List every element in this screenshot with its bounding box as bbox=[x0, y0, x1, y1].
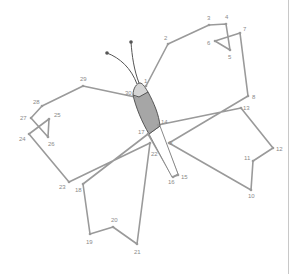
dot-label-4: 4 bbox=[225, 14, 229, 20]
dot-label-7: 7 bbox=[243, 26, 247, 32]
dot-label-17: 17 bbox=[138, 129, 145, 135]
dot-label-12: 12 bbox=[276, 146, 283, 152]
dot-label-19: 19 bbox=[86, 239, 93, 245]
dot-18 bbox=[82, 183, 85, 186]
dot-23 bbox=[68, 181, 71, 184]
dot-17 bbox=[147, 133, 150, 136]
dot-16 bbox=[172, 176, 175, 179]
dot-label-27: 27 bbox=[20, 115, 27, 121]
dot-13 bbox=[240, 107, 243, 110]
antenna-tip-icon bbox=[129, 40, 133, 44]
dot-4 bbox=[225, 23, 228, 26]
dot-30 bbox=[134, 96, 137, 99]
dot-label-24: 24 bbox=[19, 136, 26, 142]
dot-label-6: 6 bbox=[207, 40, 211, 46]
dot-7 bbox=[239, 32, 242, 35]
dot-2 bbox=[167, 43, 170, 46]
dot-label-18: 18 bbox=[75, 187, 82, 193]
dot-12 bbox=[272, 147, 275, 150]
butterfly-abdomen bbox=[133, 92, 160, 134]
dot-label-10: 10 bbox=[248, 193, 255, 199]
dot-label-20: 20 bbox=[111, 217, 118, 223]
dot-10 bbox=[250, 189, 253, 192]
dot-26 bbox=[47, 136, 50, 139]
dot-25 bbox=[48, 118, 51, 121]
dot-5 bbox=[229, 49, 232, 52]
dot-11 bbox=[252, 160, 255, 163]
butterfly-diagram: 1234567891011121314151617181920212223242… bbox=[0, 0, 297, 274]
dot-21 bbox=[136, 243, 139, 246]
dot-label-5: 5 bbox=[228, 54, 232, 60]
dot-29 bbox=[82, 85, 85, 88]
dot-24 bbox=[28, 133, 31, 136]
dot-6 bbox=[214, 40, 217, 43]
dot-label-28: 28 bbox=[33, 99, 40, 105]
dot-label-25: 25 bbox=[54, 112, 61, 118]
dot-label-30: 30 bbox=[125, 90, 132, 96]
butterfly-antennae bbox=[105, 40, 139, 84]
dot-20 bbox=[112, 226, 115, 229]
dot-label-2: 2 bbox=[164, 35, 168, 41]
dot-1 bbox=[145, 85, 148, 88]
dot-label-13: 13 bbox=[243, 105, 250, 111]
dot-label-14: 14 bbox=[161, 119, 168, 125]
dot-19 bbox=[89, 233, 92, 236]
dot-label-15: 15 bbox=[181, 174, 188, 180]
dot-label-11: 11 bbox=[244, 155, 251, 161]
dot-8 bbox=[247, 95, 250, 98]
antenna-2 bbox=[131, 42, 139, 83]
dot-14 bbox=[157, 124, 160, 127]
dot-22 bbox=[149, 142, 152, 145]
dot-15 bbox=[177, 174, 180, 177]
dot-label-16: 16 bbox=[168, 179, 175, 185]
dot-label-23: 23 bbox=[59, 184, 66, 190]
dot-label-22: 22 bbox=[151, 151, 158, 157]
dot-label-26: 26 bbox=[48, 141, 55, 147]
dot-3 bbox=[208, 24, 211, 27]
dot-27 bbox=[30, 117, 33, 120]
dot-label-21: 21 bbox=[134, 249, 141, 255]
dot-label-29: 29 bbox=[80, 76, 87, 82]
antenna-tip-icon bbox=[105, 51, 109, 55]
dot-label-3: 3 bbox=[207, 15, 211, 21]
dot-label-8: 8 bbox=[252, 94, 256, 100]
dot-28 bbox=[41, 105, 44, 108]
